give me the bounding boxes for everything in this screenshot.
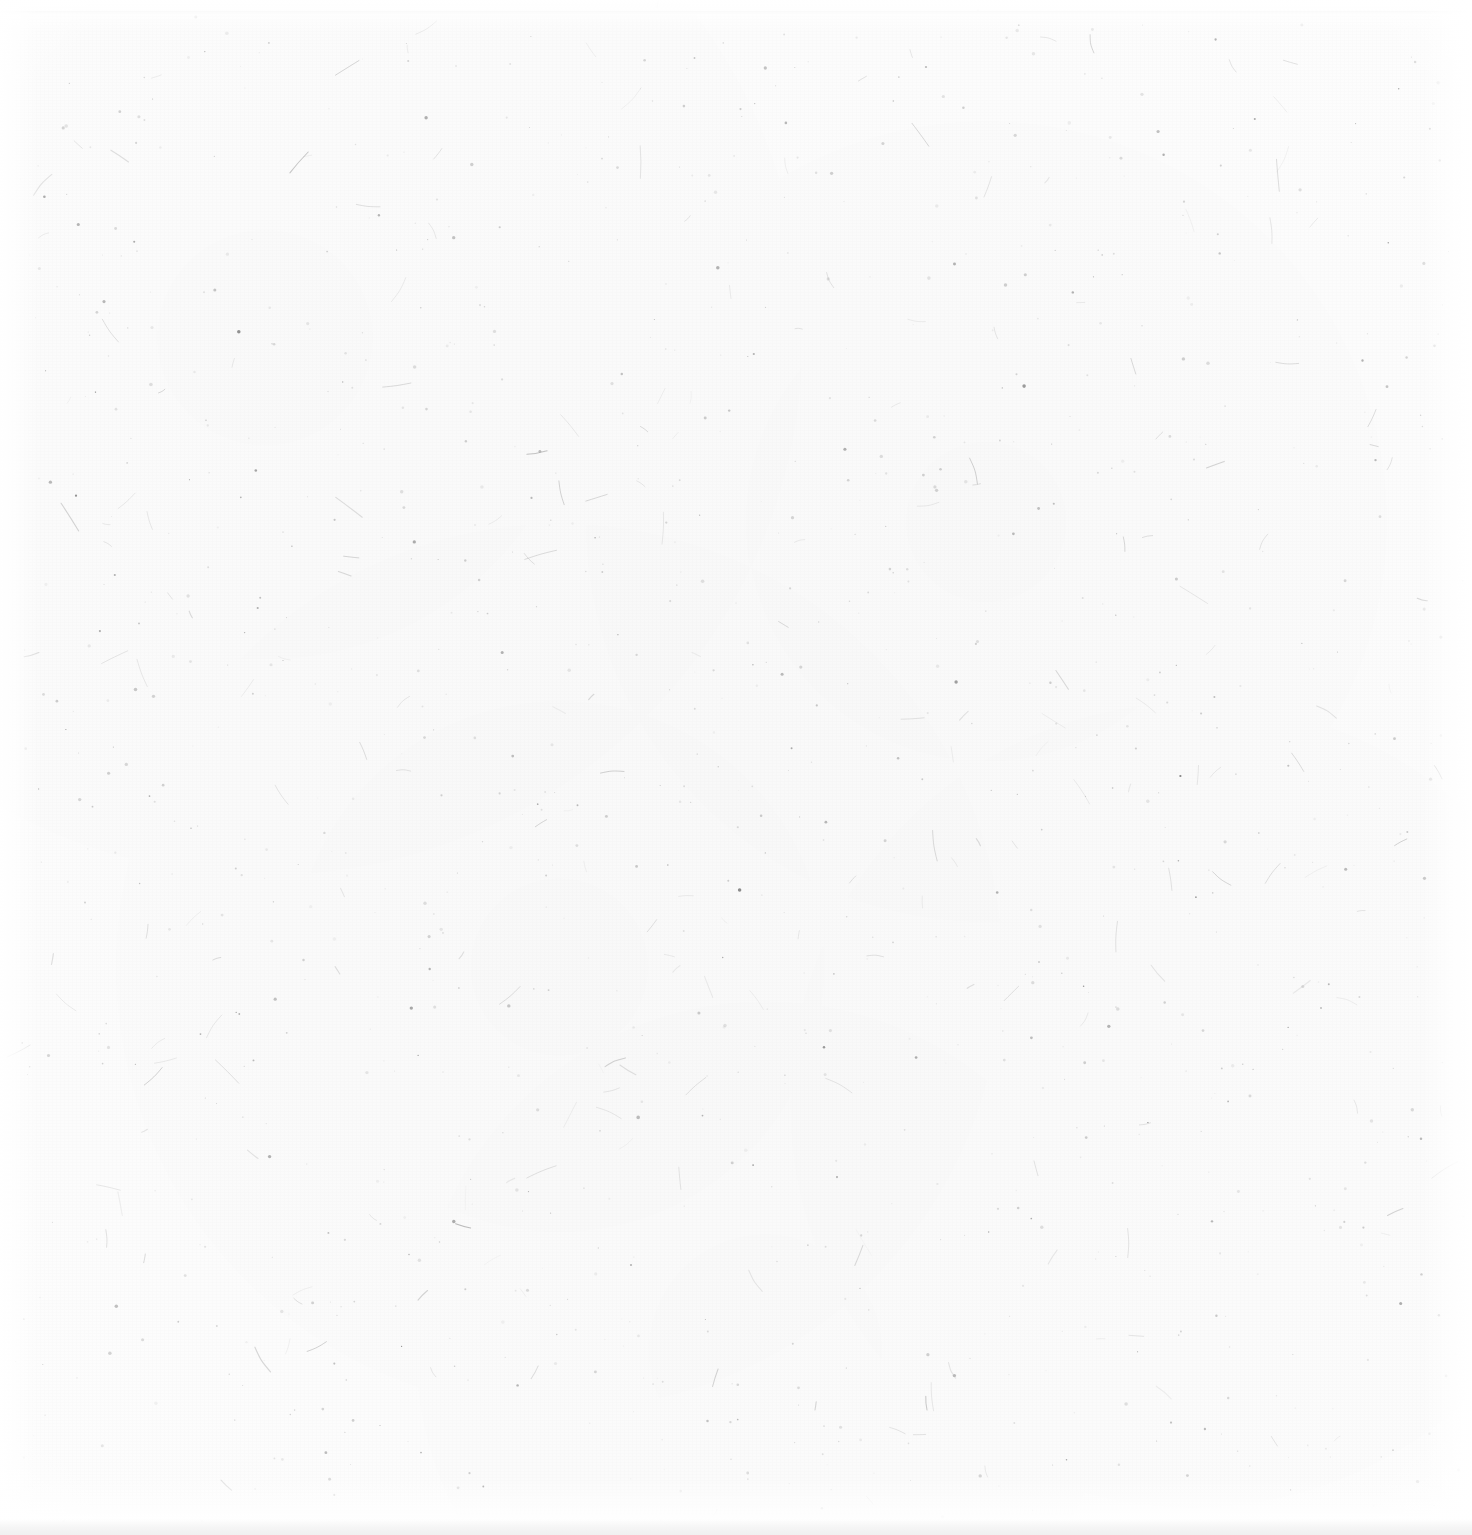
page-content-area [0, 0, 1472, 1535]
scanned-page [0, 0, 1472, 1535]
